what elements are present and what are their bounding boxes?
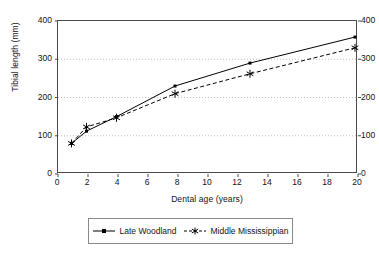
y-tick-label-right: 300	[361, 53, 379, 63]
legend-marker-small-square-icon	[93, 226, 115, 236]
y-tick-label-right: 200	[361, 92, 379, 102]
x-tick-label: 4	[105, 177, 129, 187]
y-tick-label-right: 100	[361, 130, 379, 140]
x-tick-label: 20	[345, 177, 369, 187]
x-tick-label: 12	[225, 177, 249, 187]
y-tick-label-left: 400	[22, 15, 52, 25]
x-tick-label: 14	[255, 177, 279, 187]
data-point-marker	[174, 85, 177, 88]
y-tick-label-right: 400	[361, 15, 379, 25]
y-axis-label-left: Tibial length (mm)	[10, 0, 20, 117]
legend-label-middle-mississippian: Middle Mississippian	[211, 226, 289, 236]
y-tick-label-left: 300	[22, 53, 52, 63]
x-tick-label: 10	[195, 177, 219, 187]
legend-marker-asterisk-icon	[184, 226, 206, 236]
data-point-marker	[247, 70, 254, 78]
chart-legend: Late Woodland Middle Mississippian	[88, 218, 293, 244]
x-tick-label: 0	[45, 177, 69, 187]
y-tick-label-left: 100	[22, 130, 52, 140]
x-tick-label: 6	[135, 177, 159, 187]
data-point-marker	[354, 36, 357, 39]
data-point-marker	[249, 62, 252, 65]
x-tick-label: 18	[315, 177, 339, 187]
chart-container: Tibial length (mm) 4003002001000 4003002…	[0, 0, 379, 268]
legend-item-late-woodland: Late Woodland	[93, 226, 177, 236]
x-tick-label: 16	[285, 177, 309, 187]
plot-area	[57, 20, 357, 173]
y-tick-label-left: 200	[22, 92, 52, 102]
data-point-marker	[172, 90, 179, 98]
x-axis-label: Dental age (years)	[57, 194, 357, 204]
plot-svg	[58, 21, 358, 174]
legend-label-late-woodland: Late Woodland	[120, 226, 177, 236]
x-tick-label: 2	[75, 177, 99, 187]
legend-item-middle-mississippian: Middle Mississippian	[184, 226, 289, 236]
data-point-marker	[352, 44, 359, 52]
series-line-1	[72, 48, 356, 144]
series-line-0	[72, 37, 356, 143]
x-tick-label: 8	[165, 177, 189, 187]
